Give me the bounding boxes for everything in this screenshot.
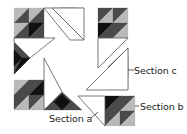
- label-section-c: Section c: [134, 66, 177, 76]
- label-section-a: Section a: [49, 114, 92, 124]
- label-section-b: Section b: [140, 102, 183, 112]
